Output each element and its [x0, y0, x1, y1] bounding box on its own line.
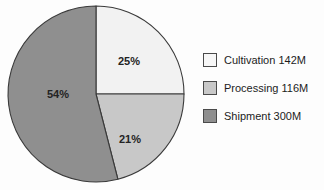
legend-item-processing[interactable]: Processing 116M — [203, 80, 323, 95]
pie-chart-figure: 25% 21% 54% Cultivation 142M Processing … — [0, 0, 324, 190]
legend-item-shipment[interactable]: Shipment 300M — [203, 108, 323, 123]
pie-label-processing: 21% — [119, 133, 141, 145]
pie-label-shipment: 54% — [47, 88, 69, 100]
legend-label-shipment: Shipment 300M — [224, 109, 301, 123]
pie-slice-cultivation[interactable] — [96, 6, 184, 94]
legend-item-cultivation[interactable]: Cultivation 142M — [203, 52, 323, 67]
legend-label-cultivation: Cultivation 142M — [224, 53, 306, 67]
pie-slices — [8, 6, 184, 182]
legend-swatch-processing — [203, 81, 217, 95]
legend-swatch-shipment — [203, 109, 217, 123]
pie-label-cultivation: 25% — [118, 55, 140, 67]
legend-swatch-cultivation — [203, 53, 217, 67]
chart-legend: Cultivation 142M Processing 116M Shipmen… — [203, 52, 323, 123]
pie-chart: 25% 21% 54% — [0, 0, 200, 190]
legend-label-processing: Processing 116M — [224, 81, 308, 95]
